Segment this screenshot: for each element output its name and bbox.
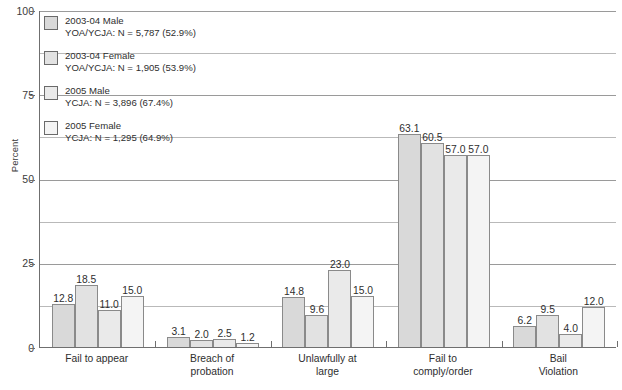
bar[interactable]: 6.2 — [513, 326, 536, 347]
bar[interactable]: 63.1 — [398, 134, 421, 347]
bar-value-label: 2.0 — [194, 329, 208, 340]
x-label-line-2: large — [270, 365, 385, 378]
bar-value-label: 9.6 — [310, 304, 324, 315]
bar-value-label: 11.0 — [100, 299, 119, 310]
bar[interactable]: 57.0 — [467, 155, 490, 347]
y-tick-mark — [30, 95, 35, 96]
bar[interactable]: 4.0 — [559, 334, 582, 347]
x-label-line-1: Bail — [501, 352, 616, 365]
x-label-line-1: Unlawfully at — [270, 352, 385, 365]
bar-value-label: 63.1 — [399, 123, 419, 134]
legend-series-name: 2005 Female — [65, 120, 173, 132]
legend-series-name: 2005 Male — [65, 85, 173, 97]
bar[interactable]: 9.5 — [536, 315, 559, 347]
legend-label: 2005 MaleYCJA: N = 3,896 (67.4%) — [65, 85, 173, 109]
bar-value-label: 4.0 — [564, 323, 578, 334]
bar-value-label: 9.5 — [541, 304, 555, 315]
bar[interactable]: 9.6 — [305, 315, 328, 347]
bar-value-label: 6.2 — [518, 315, 532, 326]
bar-value-label: 57.0 — [445, 144, 465, 155]
bar-value-label: 57.0 — [468, 144, 488, 155]
bar[interactable]: 14.8 — [282, 297, 305, 347]
bar[interactable]: 2.5 — [213, 339, 236, 347]
bar[interactable]: 11.0 — [98, 310, 121, 347]
x-label-line-1: Fail to appear — [39, 352, 154, 365]
x-axis-category-label: Fail tocomply/order — [385, 352, 500, 378]
x-label-line-2: Violation — [501, 365, 616, 378]
bar[interactable]: 2.0 — [190, 340, 213, 347]
y-tick-mark — [30, 180, 35, 181]
y-tick-mark — [30, 264, 35, 265]
bar[interactable]: 1.2 — [236, 343, 259, 347]
legend-series-name: 2003-04 Female — [65, 50, 196, 62]
bar-chart: Percent 0255075100 2003-04 MaleYOA/YCJA:… — [0, 0, 622, 390]
legend-item[interactable]: 2005 FemaleYCJA: N = 1,295 (64.9%) — [44, 116, 344, 151]
y-tick-mark — [30, 348, 35, 349]
bar[interactable]: 15.0 — [121, 296, 144, 347]
legend-swatch-icon — [44, 86, 58, 100]
x-axis-category-label: Unlawfully atlarge — [270, 352, 385, 378]
plot-area: 2003-04 MaleYOA/YCJA: N = 5,787 (52.9%)2… — [39, 11, 616, 348]
bar-value-label: 15.0 — [122, 285, 142, 296]
legend-label: 2005 FemaleYCJA: N = 1,295 (64.9%) — [65, 120, 173, 144]
legend-swatch-icon — [44, 121, 58, 135]
bar[interactable]: 12.8 — [52, 304, 75, 347]
bar-value-label: 60.5 — [422, 132, 442, 143]
bar-value-label: 1.2 — [240, 332, 254, 343]
legend: 2003-04 MaleYOA/YCJA: N = 5,787 (52.9%)2… — [44, 11, 344, 151]
bar-value-label: 15.0 — [353, 285, 373, 296]
bar-group: 63.160.557.057.0 — [386, 11, 501, 347]
bar[interactable]: 3.1 — [167, 337, 190, 347]
bar-group: 6.29.54.012.0 — [502, 11, 617, 347]
x-axis-category-label: Fail to appear — [39, 352, 154, 365]
x-label-line-2: probation — [154, 365, 269, 378]
bar-value-label: 3.1 — [171, 326, 185, 337]
bar[interactable]: 15.0 — [351, 296, 374, 347]
bar-value-label: 18.5 — [76, 274, 96, 285]
legend-label: 2003-04 MaleYOA/YCJA: N = 5,787 (52.9%) — [65, 15, 196, 39]
legend-item[interactable]: 2003-04 FemaleYOA/YCJA: N = 1,905 (53.9%… — [44, 46, 344, 81]
legend-series-name: 2003-04 Male — [65, 15, 196, 27]
legend-label: 2003-04 FemaleYOA/YCJA: N = 1,905 (53.9%… — [65, 50, 196, 74]
bar[interactable]: 18.5 — [75, 285, 98, 347]
y-axis-ticks: 0255075100 — [0, 0, 34, 390]
bar-value-label: 14.8 — [284, 286, 304, 297]
y-tick-mark — [30, 11, 35, 12]
legend-series-sublabel: YOA/YCJA: N = 5,787 (52.9%) — [65, 27, 196, 39]
x-axis-labels: Fail to appearBreach ofprobationUnlawful… — [39, 352, 616, 388]
bar-value-label: 12.8 — [53, 293, 73, 304]
bar[interactable]: 23.0 — [328, 270, 351, 348]
bar[interactable]: 57.0 — [444, 155, 467, 347]
legend-item[interactable]: 2005 MaleYCJA: N = 3,896 (67.4%) — [44, 81, 344, 116]
x-axis-category-label: Breach ofprobation — [154, 352, 269, 378]
legend-series-sublabel: YOA/YCJA: N = 1,905 (53.9%) — [65, 62, 196, 74]
bar-value-label: 12.0 — [584, 296, 604, 307]
x-axis-tick-mark — [617, 341, 618, 347]
legend-swatch-icon — [44, 16, 58, 30]
bar-value-label: 23.0 — [330, 259, 350, 270]
bar[interactable]: 12.0 — [582, 307, 605, 347]
legend-item[interactable]: 2003-04 MaleYOA/YCJA: N = 5,787 (52.9%) — [44, 11, 344, 46]
x-label-line-1: Breach of — [154, 352, 269, 365]
x-label-line-2: comply/order — [385, 365, 500, 378]
x-axis-category-label: BailViolation — [501, 352, 616, 378]
bar-value-label: 2.5 — [217, 328, 231, 339]
legend-series-sublabel: YCJA: N = 3,896 (67.4%) — [65, 97, 173, 109]
bar[interactable]: 60.5 — [421, 143, 444, 347]
x-label-line-1: Fail to — [385, 352, 500, 365]
legend-series-sublabel: YCJA: N = 1,295 (64.9%) — [65, 132, 173, 144]
legend-swatch-icon — [44, 51, 58, 65]
